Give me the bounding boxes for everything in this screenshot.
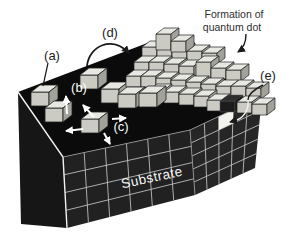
- adsorption-arrow-up: [66, 96, 67, 114]
- callout-e: (e): [260, 68, 276, 83]
- quantum-dot-formation-figure: Substrate: [0, 0, 289, 240]
- formation-annotation-line2: quantum dot: [203, 21, 261, 33]
- callout-c: (c): [113, 119, 128, 134]
- formation-pointer-arrow: [238, 34, 246, 52]
- quantum-dot-cluster: [118, 28, 275, 115]
- figure-canvas: Substrate: [0, 0, 289, 240]
- callout-d: (d): [102, 25, 118, 40]
- formation-annotation-line1: Formation of: [205, 8, 264, 20]
- callout-b: (b): [71, 80, 87, 95]
- callout-a: (a): [44, 48, 60, 63]
